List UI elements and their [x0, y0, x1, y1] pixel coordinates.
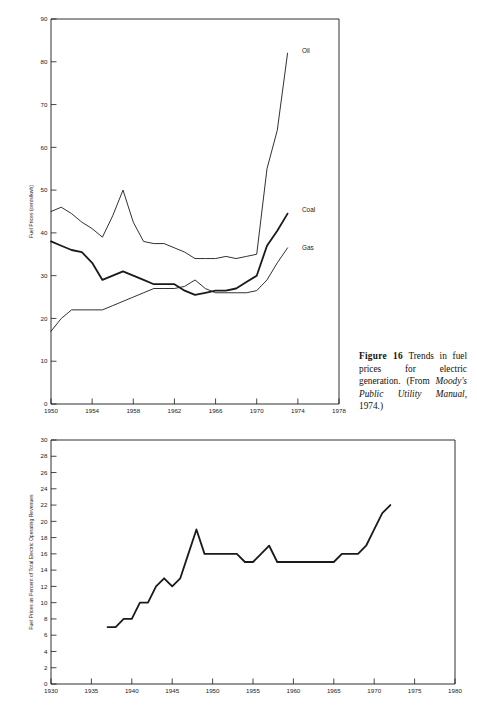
y-tick-label: 70 [41, 101, 48, 108]
y-tick-label: 12 [41, 583, 48, 590]
y-tick-label: 20 [41, 315, 48, 322]
y-tick-label: 24 [41, 485, 48, 492]
y-tick-label: 4 [44, 648, 48, 655]
y-axis: 024681012141618202224262830 [41, 436, 57, 687]
x-tick-label: 1950 [44, 407, 58, 414]
y-tick-label: 90 [41, 15, 48, 22]
series-line-coal [51, 214, 288, 295]
y-tick-label: 50 [41, 186, 48, 193]
x-tick-label: 1970 [250, 407, 264, 414]
y-tick-label: 2 [44, 664, 48, 671]
x-axis: 19501954195819621966197019741978 [44, 399, 346, 414]
x-tick-label: 1950 [206, 687, 220, 694]
y-axis-title: Fuel Prices (cents/kwh) [28, 185, 34, 238]
x-tick-label: 1958 [126, 407, 140, 414]
figure-caption-label: Figure 16 [359, 351, 403, 361]
y-tick-label: 40 [41, 229, 48, 236]
y-tick-label: 10 [41, 599, 48, 606]
x-tick-label: 1940 [125, 687, 139, 694]
chart-fuel-percent-revenues: 0246810121416182022242628301930193519401… [0, 428, 477, 715]
y-tick-label: 6 [44, 631, 48, 638]
y-tick-label: 14 [41, 566, 48, 573]
x-tick-label: 1966 [209, 407, 223, 414]
figure-caption: Figure 16 Trends in fuel prices for elec… [359, 350, 467, 413]
x-tick-label: 1935 [85, 687, 99, 694]
plot-frame [51, 19, 339, 404]
x-tick-label: 1975 [408, 687, 422, 694]
y-tick-label: 30 [41, 436, 48, 443]
series-label-gas: Gas [302, 244, 314, 251]
y-tick-label: 10 [41, 357, 48, 364]
figure-fuel-percent-revenues: 0246810121416182022242628301930193519401… [0, 428, 477, 715]
y-tick-label: 60 [41, 144, 48, 151]
x-tick-label: 1965 [327, 687, 341, 694]
series-line-fuel-prices-as-percent-of-revenues [108, 505, 391, 627]
y-tick-label: 26 [41, 469, 48, 476]
x-tick-label: 1978 [332, 407, 346, 414]
x-tick-label: 1955 [246, 687, 260, 694]
y-tick-label: 28 [41, 452, 48, 459]
x-tick-label: 1962 [168, 407, 182, 414]
x-tick-label: 1960 [287, 687, 301, 694]
y-axis: 0102030405060708090 [41, 15, 57, 407]
x-tick-label: 1954 [85, 407, 99, 414]
y-tick-label: 30 [41, 272, 48, 279]
y-tick-label: 16 [41, 550, 48, 557]
series-line-gas [51, 248, 288, 331]
y-tick-label: 18 [41, 534, 48, 541]
x-tick-label: 1974 [291, 407, 305, 414]
x-tick-label: 1930 [44, 687, 58, 694]
series-label-coal: Coal [302, 206, 315, 213]
y-axis-title: Fuel Prices as Percent of Total Electric… [28, 494, 34, 630]
series-label-oil: Oil [302, 47, 310, 54]
x-axis: 1930193519401945195019551960196519701975… [44, 679, 462, 694]
x-tick-label: 1970 [367, 687, 381, 694]
y-tick-label: 20 [41, 518, 48, 525]
y-tick-label: 22 [41, 501, 48, 508]
axis-frame [51, 19, 339, 404]
x-tick-label: 1980 [448, 687, 462, 694]
y-tick-label: 80 [41, 58, 48, 65]
y-tick-label: 8 [44, 615, 48, 622]
x-tick-label: 1945 [165, 687, 179, 694]
document-page: 0102030405060708090195019541958196219661… [0, 0, 477, 715]
series-line-oil [51, 53, 288, 258]
